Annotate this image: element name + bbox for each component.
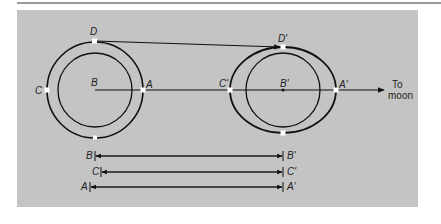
label-A-prime: A′	[338, 79, 349, 90]
to-moon-label-line2: moon	[388, 90, 413, 101]
bar-label-B-prime: B′	[287, 150, 297, 161]
label-D: D	[90, 26, 97, 37]
bar-label-C-prime: C′	[287, 166, 297, 177]
distance-bar-B	[95, 151, 283, 161]
label-B-prime: B′	[280, 78, 290, 89]
bar-label-C: C	[92, 166, 100, 177]
to-moon-label-line1: To	[392, 79, 403, 90]
bar-label-B: B	[86, 150, 93, 161]
label-C-prime: C′	[219, 78, 229, 89]
label-A: A	[145, 79, 153, 90]
distance-bar-C	[101, 167, 283, 177]
tidal-diagram: D C B A D′ C′ B′ A′ To moon B B′ C C′ A …	[0, 0, 441, 224]
label-D-prime: D′	[278, 33, 288, 44]
distance-bar-A	[90, 182, 283, 192]
label-B: B	[91, 77, 98, 88]
label-C: C	[35, 85, 43, 96]
displacement-arrow	[95, 41, 280, 47]
bar-label-A: A	[80, 181, 88, 192]
bar-label-A-prime: A′	[286, 181, 297, 192]
